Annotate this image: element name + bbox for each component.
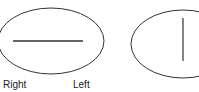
right-ellipse <box>131 10 199 78</box>
left-label: Left <box>73 80 90 90</box>
diagram-canvas <box>0 0 199 92</box>
right-label: Right <box>3 80 26 90</box>
